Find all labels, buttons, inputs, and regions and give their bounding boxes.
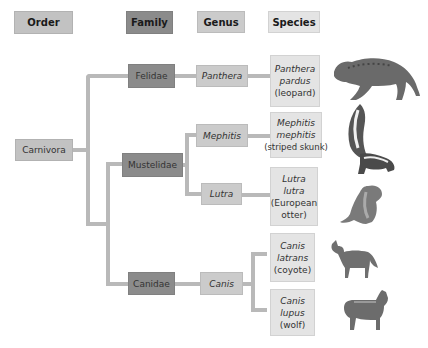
- connector-coyote: [251, 252, 267, 256]
- node-family-mustelidae: Mustelidae: [122, 153, 183, 177]
- species-genus-name: Mephitis: [277, 117, 315, 129]
- connector-canidae: [106, 282, 128, 286]
- species-epithet: mephitis: [277, 129, 316, 141]
- node-family-canidae: Canidae: [128, 272, 175, 295]
- node-family-felidae: Felidae: [128, 64, 175, 88]
- node-species-canis-latrans: Canis latrans (coyote): [270, 233, 315, 282]
- species-common-name: (coyote): [274, 264, 311, 276]
- connector-mustelidae: [106, 162, 123, 166]
- connector-felidae: [86, 74, 128, 78]
- species-genus-name: Canis: [280, 295, 305, 307]
- connector-trunk-vertical: [86, 74, 90, 226]
- connector-wolf: [251, 308, 267, 312]
- species-common-name: (striped skunk): [264, 141, 328, 153]
- connector-panthera-species: [248, 74, 270, 78]
- node-species-mephitis-mephitis: Mephitis mephitis (striped skunk): [270, 112, 322, 158]
- connector-mephitis-species: [248, 134, 270, 138]
- connector-lower-vertical: [106, 162, 110, 286]
- connector-mephitis: [185, 133, 196, 137]
- node-genus-panthera: Panthera: [196, 65, 248, 87]
- species-epithet: lutra: [284, 185, 305, 197]
- connector-lutra-species: [242, 193, 270, 197]
- connector-canidae-canis: [175, 282, 200, 286]
- header-species: Species: [268, 11, 320, 33]
- species-genus-name: Panthera: [275, 63, 316, 75]
- wolf-icon: [340, 288, 392, 334]
- species-common-name: (European: [271, 197, 317, 209]
- species-genus-name: Canis: [280, 240, 305, 252]
- node-species-canis-lupus: Canis lupus (wolf): [270, 289, 315, 336]
- connector-lutra: [185, 192, 201, 196]
- connector-canis-vertical: [251, 252, 255, 312]
- node-species-lutra-lutra: Lutra lutra (European otter): [270, 167, 318, 226]
- header-order: Order: [14, 11, 73, 34]
- node-genus-mephitis: Mephitis: [196, 124, 248, 147]
- otter-icon: [338, 182, 388, 230]
- connector-felidae-panthera: [175, 74, 196, 78]
- node-species-panthera-pardus: Panthera pardus (leopard): [270, 55, 320, 107]
- species-common-name: (leopard): [274, 87, 315, 99]
- species-epithet: latrans: [277, 252, 308, 264]
- species-common-name-2: otter): [281, 209, 306, 221]
- species-common-name: (wolf): [280, 319, 306, 331]
- node-order-carnivora: Carnivora: [15, 139, 73, 161]
- node-genus-lutra: Lutra: [201, 183, 242, 205]
- coyote-icon: [328, 238, 380, 282]
- species-genus-name: Lutra: [282, 173, 305, 185]
- species-epithet: lupus: [280, 307, 304, 319]
- header-genus: Genus: [197, 11, 245, 33]
- skunk-icon: [340, 100, 400, 178]
- species-epithet: pardus: [279, 75, 310, 87]
- connector-mustelidae-vertical: [185, 133, 189, 196]
- node-genus-canis: Canis: [200, 272, 243, 295]
- header-family: Family: [126, 11, 173, 34]
